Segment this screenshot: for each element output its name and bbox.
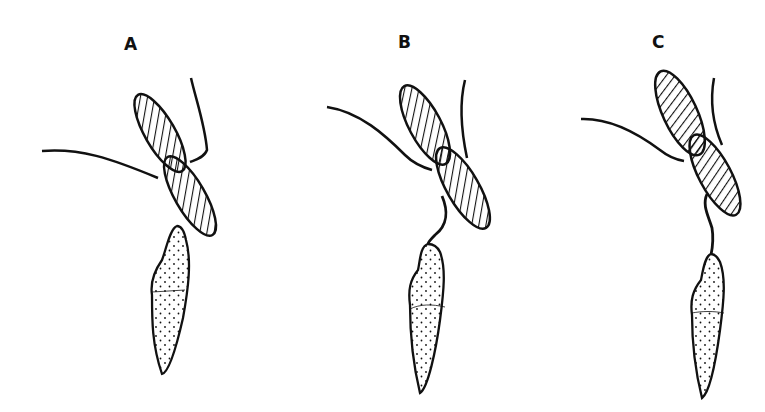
hatched-cell	[125, 87, 225, 242]
flagellum-short	[461, 80, 467, 158]
connecting-tube	[428, 196, 446, 244]
flagellum-short	[712, 78, 722, 145]
stippled-cell	[691, 254, 723, 398]
diagram-canvas	[0, 0, 765, 412]
flagellum-long	[42, 150, 158, 178]
panel-b	[327, 79, 500, 393]
panel-c	[581, 64, 750, 398]
connecting-tube	[705, 194, 713, 255]
stippled-cell	[409, 244, 444, 393]
hatched-cell	[645, 64, 750, 222]
flagellum-short	[190, 78, 207, 162]
panel-a	[42, 78, 225, 374]
stippled-cell	[152, 226, 189, 374]
